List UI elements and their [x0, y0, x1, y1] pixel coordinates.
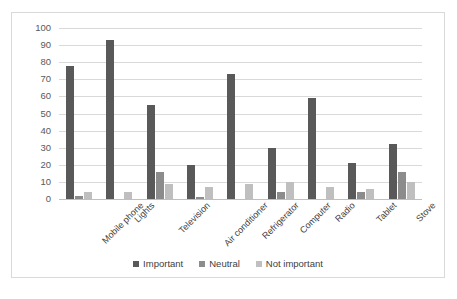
x-axis-tick-label: Air conditioner — [223, 201, 270, 248]
y-axis-tick-label: 60 — [40, 92, 51, 102]
bar — [407, 182, 415, 199]
bar — [156, 172, 164, 199]
bar-group — [140, 28, 180, 199]
x-axis-tick-label: Radio — [334, 201, 357, 224]
y-axis-tick-label: 20 — [40, 160, 51, 170]
y-axis-tick-label: 30 — [40, 143, 51, 153]
bar — [277, 192, 285, 199]
bar — [348, 163, 356, 199]
y-axis: 0102030405060708090100 — [12, 28, 56, 199]
gridline — [59, 199, 422, 200]
x-axis-tick-label: Computer — [298, 201, 332, 235]
chart-legend: ImportantNeutralNot important — [12, 259, 444, 269]
bar — [75, 196, 83, 199]
bar-group — [341, 28, 381, 199]
y-axis-tick-label: 80 — [40, 57, 51, 67]
x-axis-tick-label: Stove — [415, 201, 438, 224]
y-axis-tick-label: 0 — [46, 194, 51, 204]
bar — [398, 172, 406, 199]
legend-label: Neutral — [209, 259, 240, 269]
y-axis-tick-label: 40 — [40, 126, 51, 136]
y-axis-tick-label: 70 — [40, 75, 51, 85]
bar — [147, 105, 155, 199]
y-axis-tick-label: 90 — [40, 40, 51, 50]
bar — [227, 74, 235, 199]
bar-group — [301, 28, 341, 199]
bar — [268, 148, 276, 199]
bar — [165, 184, 173, 199]
y-axis-tick-label: 10 — [40, 177, 51, 187]
bar — [106, 40, 114, 199]
legend-item[interactable]: Important — [133, 259, 183, 269]
bar — [357, 192, 365, 199]
bar — [286, 182, 294, 199]
legend-item[interactable]: Not important — [256, 259, 323, 269]
chart-frame: 0102030405060708090100 Mobile phoneLight… — [11, 12, 445, 278]
bar — [187, 165, 195, 199]
bar — [84, 192, 92, 199]
legend-swatch-important — [133, 261, 139, 267]
legend-swatch-not-important — [256, 261, 262, 267]
bar-group — [59, 28, 99, 199]
legend-label: Not important — [266, 259, 323, 269]
legend-label: Important — [143, 259, 183, 269]
bar — [245, 184, 253, 199]
bar — [124, 192, 132, 199]
plot-area — [59, 28, 422, 199]
bar — [389, 144, 397, 199]
bar — [196, 197, 204, 199]
bar — [205, 187, 213, 199]
bar — [326, 187, 334, 199]
bar-group — [382, 28, 422, 199]
legend-item[interactable]: Neutral — [199, 259, 240, 269]
y-axis-tick-label: 50 — [40, 109, 51, 119]
x-axis-tick-label: Tablet — [375, 201, 398, 224]
bar-group — [180, 28, 220, 199]
bar-group — [261, 28, 301, 199]
bar — [66, 66, 74, 199]
y-axis-tick-label: 100 — [35, 23, 51, 33]
bar — [366, 189, 374, 199]
bar-group — [220, 28, 260, 199]
x-axis: Mobile phoneLightsTelevisionAir conditio… — [59, 201, 422, 263]
legend-swatch-neutral — [199, 261, 205, 267]
x-axis-tick-label: Television — [177, 201, 211, 235]
bar-group — [99, 28, 139, 199]
bar — [308, 98, 316, 199]
